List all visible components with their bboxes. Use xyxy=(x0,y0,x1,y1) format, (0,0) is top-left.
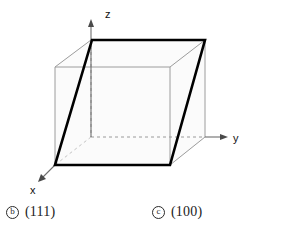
caption-marker-b-icon: b xyxy=(6,206,19,219)
caption-marker-c-icon: c xyxy=(152,206,165,219)
y-axis-label: y xyxy=(233,132,239,144)
cube-diagram: z y x xyxy=(0,0,284,200)
y-axis-arrowhead xyxy=(220,134,228,140)
x-axis-line xyxy=(42,165,55,178)
z-axis-arrowhead xyxy=(88,19,94,27)
caption-item-b: b (111) xyxy=(6,205,55,219)
caption-item-c: c (100) xyxy=(152,205,202,219)
figure-root: z y x b (111) c (100) xyxy=(0,0,284,228)
caption-label-c: (100) xyxy=(171,205,202,219)
caption-row: b (111) c (100) xyxy=(0,198,284,228)
cube-front-face xyxy=(55,67,170,165)
caption-label-b: (111) xyxy=(25,205,55,219)
z-axis-label: z xyxy=(105,8,111,20)
x-axis-label: x xyxy=(30,184,36,196)
